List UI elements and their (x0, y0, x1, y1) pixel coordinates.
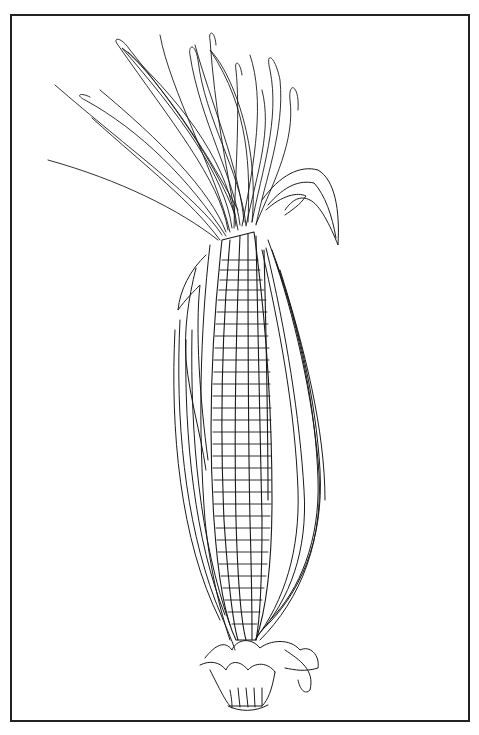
corn-illustration (0, 0, 479, 735)
corn-silk (48, 33, 298, 240)
corn-cob (211, 232, 272, 640)
